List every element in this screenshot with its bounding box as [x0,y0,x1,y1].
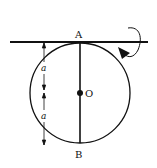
label-a-upper: a [41,63,46,73]
rotation-arrow-icon [118,28,140,59]
center-dot [77,90,83,96]
label-a-point: A [74,29,83,40]
label-a-lower: a [41,111,46,121]
diagram-canvas: A O B a a [0,0,157,168]
label-b: B [75,149,82,160]
label-o: O [85,88,93,99]
